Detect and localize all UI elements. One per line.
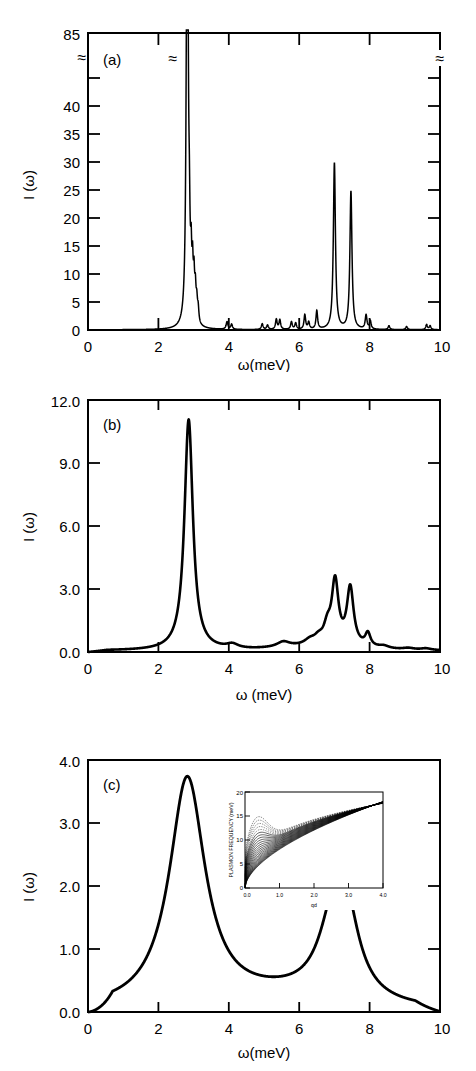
y-ticklabel: 9.0 [59, 455, 80, 472]
axis-break-icon-peak: ≈ [169, 50, 178, 67]
x-ticklabel: 6 [295, 338, 303, 355]
inset-x-ticklabel: 2.0 [310, 892, 317, 898]
panel-c-y-ticklabels: 0.0 1.0 2.0 3.0 4.0 [59, 753, 80, 1021]
y-ticklabel: 30 [63, 154, 80, 171]
panel-a-label: (a) [103, 51, 121, 68]
y-ticklabel: 3.0 [59, 815, 80, 832]
axis-break-icon-left: ≈ [78, 49, 87, 66]
panel-a-x-ticklabels: 0 2 4 6 8 10 [84, 338, 451, 355]
x-ticklabel: 6 [295, 1020, 303, 1037]
x-ticklabel: 8 [365, 660, 373, 677]
y-ticklabel: 4.0 [59, 753, 80, 770]
inset-y-axis-label: PLASMON FREQUENCY (meV) [228, 802, 234, 877]
inset-y-ticklabel: 10 [236, 837, 243, 843]
y-ticklabel: 1.0 [59, 941, 80, 958]
x-ticklabel: 2 [154, 1020, 162, 1037]
panel-a-x-axis-label: ω(meV) [238, 356, 291, 372]
y-ticklabel-top: 85 [63, 26, 80, 43]
inset-x-ticklabel: 0.0 [243, 892, 250, 898]
panel-b-x-ticklabels: 0 2 4 6 8 10 [84, 660, 451, 677]
x-ticklabel: 2 [154, 660, 162, 677]
panel-c-y-ticks-right [428, 823, 440, 949]
inset-x-ticklabel: 4.0 [379, 892, 386, 898]
y-ticklabel: 2.0 [59, 878, 80, 895]
panel-c-y-ticks [88, 760, 100, 1012]
panel-c-inset: 0 5 10 15 20 0.0 1.0 2.0 3.0 4.0 qd PLAS… [218, 790, 387, 910]
panel-b: 0.0 3.0 6.0 9.0 12.0 0 2 4 6 8 10 ω (meV… [0, 372, 476, 712]
x-ticklabel: 10 [434, 1020, 451, 1037]
x-ticklabel: 4 [225, 660, 233, 677]
x-ticklabel: 6 [295, 660, 303, 677]
y-ticklabel: 0.0 [59, 1004, 80, 1021]
y-ticklabel: 3.0 [59, 581, 80, 598]
panel-c-plot-area: 0 5 10 15 20 0.0 1.0 2.0 3.0 4.0 qd PLAS… [0, 712, 476, 1071]
inset-x-ticklabel: 3.0 [345, 892, 352, 898]
panel-a-svg: ≈ ≈ ≈ 0 5 10 15 20 25 30 35 40 85 [0, 0, 476, 372]
inset-x-ticklabel: 1.0 [276, 892, 283, 898]
panel-b-label: (b) [103, 416, 121, 433]
panel-a-axis-break-group: ≈ ≈ ≈ [78, 49, 445, 67]
x-ticklabel: 0 [84, 338, 92, 355]
x-ticklabel: 8 [365, 338, 373, 355]
panel-a-y-ticklabels: 0 5 10 15 20 25 30 35 40 85 [63, 26, 80, 339]
panel-b-svg: 0.0 3.0 6.0 9.0 12.0 0 2 4 6 8 10 ω (meV… [0, 372, 476, 712]
x-ticklabel: 10 [434, 338, 451, 355]
panel-a-y-ticks [88, 78, 100, 330]
panel-b-data-curve [88, 419, 440, 652]
panel-a-y-axis-label: I (ω) [20, 170, 37, 200]
panel-b-plot-area: 0.0 3.0 6.0 9.0 12.0 0 2 4 6 8 10 ω (meV… [0, 372, 476, 712]
inset-y-ticklabel: 15 [236, 813, 243, 819]
panel-c-label: (c) [103, 776, 121, 793]
panel-b-y-axis-label: I (ω) [20, 512, 37, 542]
panel-b-y-ticklabels: 0.0 3.0 6.0 9.0 12.0 [51, 393, 80, 661]
axis-break-icon-right: ≈ [436, 50, 445, 67]
panel-c-x-ticks [158, 1002, 369, 1012]
panel-b-x-axis-label: ω (meV) [236, 686, 293, 703]
y-ticklabel: 35 [63, 126, 80, 143]
x-ticklabel: 0 [84, 660, 92, 677]
y-ticklabel: 0.0 [59, 644, 80, 661]
panel-a-frame [88, 33, 440, 330]
y-ticklabel: 10 [63, 266, 80, 283]
x-ticklabel: 4 [225, 338, 233, 355]
y-ticklabel: 0 [72, 322, 80, 339]
panel-b-y-ticks-right [428, 463, 440, 589]
panel-a: ≈ ≈ ≈ 0 5 10 15 20 25 30 35 40 85 [0, 0, 476, 372]
inset-y-ticklabel: 20 [236, 790, 243, 796]
panel-c: 0 5 10 15 20 0.0 1.0 2.0 3.0 4.0 qd PLAS… [0, 712, 476, 1071]
y-ticklabel: 40 [63, 98, 80, 115]
y-ticklabel: 15 [63, 238, 80, 255]
panel-a-x-ticks-top [158, 33, 369, 45]
panel-a-plot-area: ≈ ≈ ≈ 0 5 10 15 20 25 30 35 40 85 [0, 0, 476, 372]
x-ticklabel: 8 [365, 1020, 373, 1037]
x-ticklabel: 4 [225, 1020, 233, 1037]
panel-c-x-axis-label: ω(meV) [238, 1044, 291, 1061]
x-ticklabel: 0 [84, 1020, 92, 1037]
panel-c-svg: 0 5 10 15 20 0.0 1.0 2.0 3.0 4.0 qd PLAS… [0, 712, 476, 1071]
inset-x-axis-label: qd [311, 902, 317, 908]
panel-c-x-ticklabels: 0 2 4 6 8 10 [84, 1020, 451, 1037]
y-ticklabel: 12.0 [51, 393, 80, 410]
y-ticklabel: 6.0 [59, 518, 80, 535]
x-ticklabel: 10 [434, 660, 451, 677]
panel-b-y-ticks [88, 400, 100, 652]
y-ticklabel: 25 [63, 182, 80, 199]
panel-b-x-ticks-top [158, 400, 369, 410]
panel-c-y-axis-label: I (ω) [20, 872, 37, 902]
y-ticklabel: 20 [63, 210, 80, 227]
y-ticklabel: 5 [72, 294, 80, 311]
x-ticklabel: 2 [154, 338, 162, 355]
panel-a-y-ticks-right [428, 78, 440, 302]
panel-b-frame [88, 400, 440, 652]
panel-a-data-curve [88, 30, 440, 330]
